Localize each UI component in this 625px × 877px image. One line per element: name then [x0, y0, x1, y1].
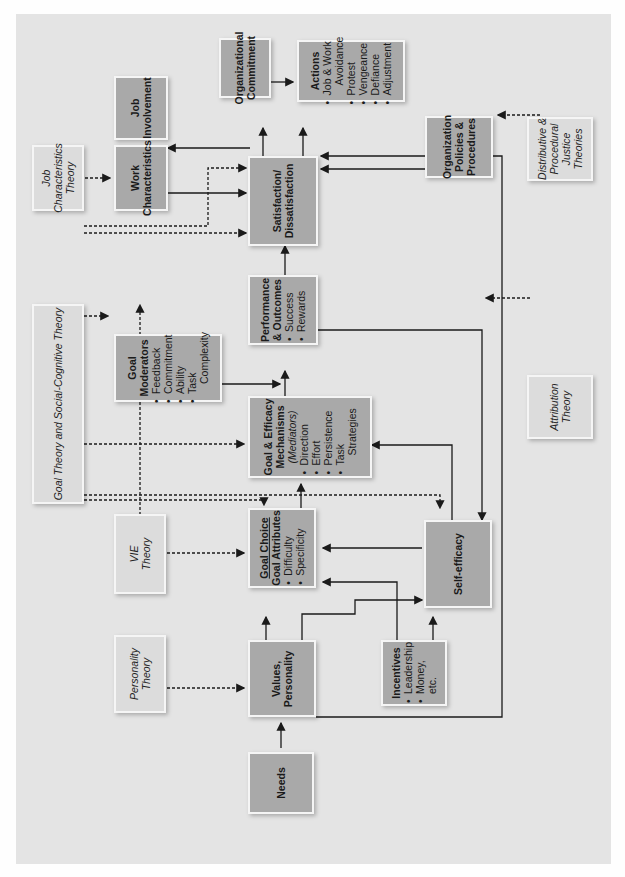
jct-label-2: Characteristics — [52, 143, 64, 212]
mechanism-item: Effort — [310, 398, 322, 465]
job-characteristics-theory-box: JobCharacteristicsTheory — [32, 145, 84, 211]
personality-theory-label-2: Theory — [140, 648, 152, 700]
action-item: Protest — [345, 37, 357, 96]
goal-theory-box: Goal Theory and Social-Cognitive Theory — [32, 304, 84, 504]
mechanism-item: Task — [334, 398, 346, 465]
incentives-item: Money, — [414, 642, 426, 694]
goal-moderators-box: Goal Moderators FeedbackCommitmentAbilit… — [114, 334, 222, 402]
outcome-item: Success — [283, 278, 295, 332]
organizational-commitment-box: OrganizationalCommitment — [219, 38, 271, 98]
goal-moderators-title-2: Moderators — [138, 332, 150, 404]
justice-label-2: Procedural — [548, 118, 560, 180]
job-involvement-box: JobInvolvement — [114, 76, 168, 140]
self-efficacy-box: Self-efficacy — [424, 520, 492, 608]
personality-theory-box: PersonalityTheory — [114, 635, 166, 713]
performance-title: Performance — [259, 278, 271, 342]
mechanism-extra: Strategies — [346, 408, 358, 475]
vie-theory-box: VIETheory — [114, 514, 166, 594]
needs-box: Needs — [248, 752, 314, 814]
attribution-label-2: Theory — [560, 383, 572, 430]
attribution-label: Attribution — [548, 383, 560, 430]
justice-label-4: Theories — [572, 118, 584, 180]
justice-label-3: Justice — [560, 118, 572, 180]
goal-attributes-subtitle: Goal Attributes — [270, 510, 282, 585]
self-efficacy-label: Self-efficacy — [452, 533, 464, 595]
vie-theory-label: VIE — [128, 538, 140, 571]
action-item: Adjustment — [381, 37, 393, 96]
jct-label-3: Theory — [64, 143, 76, 212]
goal-efficacy-mechanisms-box: Goal & Efficacy Mechanisms (Mediators) D… — [248, 396, 372, 478]
vie-theory-label-2: Theory — [140, 538, 152, 571]
org-commitment-label-2: Commitment — [245, 32, 257, 105]
moderator-extra: Complexity — [198, 332, 210, 404]
job-involvement-label-2: Involvement — [141, 77, 153, 138]
org-policies-label-2: Policies & — [453, 115, 465, 179]
organization-policies-box: OrganizationPolicies &Procedures — [425, 116, 493, 178]
incentives-title: Incentives — [390, 642, 402, 704]
values-personality-box: Values,Personality — [248, 640, 316, 717]
goal-attribute-item: Difficulty — [282, 510, 294, 575]
work-characteristics-box: WorkCharacteristics — [114, 145, 168, 211]
satisfaction-label-2: Dissatisfaction — [283, 164, 295, 239]
work-char-label: Work — [129, 140, 141, 216]
action-item: Defiance — [369, 37, 381, 96]
goal-choice-box: Goal Choice Goal Attributes DifficultySp… — [248, 508, 316, 588]
performance-title-2: & Outcomes — [271, 278, 283, 342]
justice-theories-box: Distributive &ProceduralJusticeTheories — [527, 117, 593, 181]
goal-efficacy-title: Goal & Efficacy — [262, 398, 274, 475]
goal-theory-label: Goal Theory and Social-Cognitive Theory — [52, 308, 64, 501]
org-policies-label-3: Procedures — [465, 115, 477, 179]
moderator-item: Ability — [174, 332, 186, 394]
needs-label: Needs — [275, 767, 287, 799]
org-commitment-label: Organizational — [233, 32, 245, 105]
outcome-item: Rewards — [295, 278, 307, 332]
incentives-box: Incentives LeadershipMoney, etc. — [381, 640, 447, 706]
mechanism-item: Persistence — [322, 398, 334, 465]
mediators-subtitle: (Mediators) — [286, 398, 298, 475]
action-item: Vengeance — [357, 37, 369, 96]
performance-outcomes-box: Performance & Outcomes SuccessRewards — [248, 275, 318, 345]
actions-box: Actions Job & Work Avoidance ProtestVeng… — [297, 40, 405, 102]
actions-title: Actions — [309, 37, 321, 106]
mechanism-item: Direction — [298, 398, 310, 465]
values-label: Values, — [270, 650, 282, 707]
values-label-2: Personality — [282, 650, 294, 707]
attribution-theory-box: AttributionTheory — [527, 375, 593, 439]
jct-label: Job — [40, 143, 52, 212]
goal-moderators-title: Goal — [126, 332, 138, 404]
personality-theory-label: Personality — [128, 648, 140, 700]
satisfaction-box: Satisfaction/Dissatisfaction — [248, 156, 318, 246]
justice-label: Distributive & — [536, 118, 548, 180]
moderator-item: Feedback — [150, 332, 162, 394]
action-item: Job & Work — [321, 37, 333, 96]
goal-attribute-item: Specificity — [294, 510, 306, 575]
incentives-extra: etc. — [426, 677, 438, 704]
action-item-continued: Avoidance — [333, 37, 345, 106]
goal-choice-title: Goal Choice — [258, 510, 270, 585]
work-char-label-2: Characteristics — [141, 140, 153, 216]
moderator-item: Task — [186, 332, 198, 394]
incentives-item: Leadership — [402, 642, 414, 694]
goal-efficacy-title-2: Mechanisms — [274, 398, 286, 475]
satisfaction-label: Satisfaction/ — [271, 164, 283, 239]
moderator-item: Commitment — [162, 332, 174, 394]
job-involvement-label: Job — [129, 77, 141, 138]
org-policies-label: Organization — [441, 115, 453, 179]
